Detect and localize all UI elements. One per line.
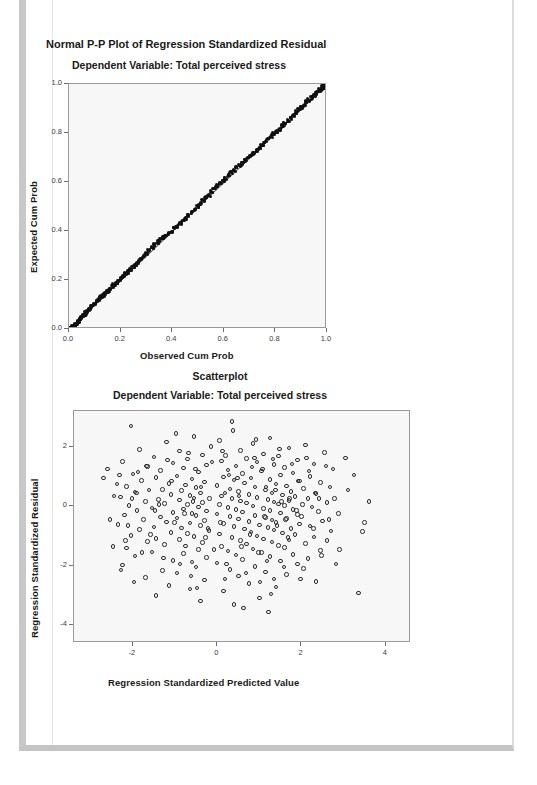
data-point — [253, 513, 258, 518]
data-point — [124, 546, 129, 551]
data-point — [268, 554, 273, 559]
data-point — [234, 507, 239, 512]
data-point — [174, 431, 179, 436]
data-point — [249, 476, 254, 481]
axis-tick — [385, 642, 386, 646]
data-point — [130, 496, 135, 501]
data-point — [257, 523, 262, 528]
data-point — [312, 462, 317, 467]
data-point — [266, 525, 271, 530]
data-point — [207, 496, 212, 501]
data-point — [188, 521, 193, 526]
axis-tick — [171, 328, 172, 332]
data-point — [232, 524, 237, 529]
data-point — [200, 453, 205, 458]
data-point — [223, 453, 228, 458]
data-point — [272, 577, 277, 582]
axis-tick-label: 1.0 — [313, 334, 339, 343]
data-point — [280, 493, 285, 498]
data-point — [274, 482, 279, 487]
data-point — [290, 462, 295, 467]
data-point — [212, 547, 217, 552]
data-point — [134, 491, 139, 496]
data-point — [198, 599, 203, 604]
data-point — [287, 446, 292, 451]
data-point — [169, 492, 174, 497]
data-point — [283, 517, 288, 522]
data-point — [148, 532, 153, 537]
data-point — [145, 539, 150, 544]
data-point — [255, 460, 260, 465]
axis-tick — [69, 446, 73, 447]
data-point — [276, 543, 281, 548]
data-point — [182, 511, 187, 516]
data-point — [230, 535, 235, 540]
data-point — [196, 547, 201, 552]
data-point — [224, 562, 229, 567]
data-point — [332, 496, 337, 501]
data-point — [275, 523, 280, 528]
data-point — [129, 424, 134, 429]
axis-tick-label: 0 — [45, 500, 67, 509]
data-point — [132, 580, 137, 585]
data-point — [92, 303, 95, 306]
data-point — [144, 464, 149, 469]
data-point — [237, 494, 242, 499]
data-point — [158, 239, 161, 242]
data-point — [303, 443, 308, 448]
data-point — [156, 497, 161, 502]
data-point — [200, 540, 205, 545]
data-point — [116, 522, 121, 527]
data-point — [298, 577, 303, 582]
axis-tick — [64, 83, 68, 84]
data-point — [215, 512, 220, 517]
data-point — [139, 478, 144, 483]
axis-tick-label: 0.8 — [261, 334, 287, 343]
axis-tick-label: 0.4 — [158, 334, 184, 343]
data-point — [219, 544, 224, 549]
data-point — [242, 527, 247, 532]
data-point — [178, 562, 183, 567]
data-point — [250, 465, 255, 470]
data-point — [194, 565, 199, 570]
data-point — [181, 466, 186, 471]
data-point — [191, 499, 196, 504]
data-point — [108, 517, 113, 522]
data-point — [171, 510, 176, 515]
data-point — [204, 509, 209, 514]
data-point — [278, 473, 283, 478]
data-point — [157, 502, 162, 507]
data-point — [293, 494, 298, 499]
axis-tick — [64, 230, 68, 231]
data-point — [356, 591, 361, 596]
data-point — [265, 559, 270, 564]
data-point — [360, 529, 365, 534]
data-point — [263, 570, 268, 575]
data-point — [190, 560, 195, 565]
data-point — [193, 467, 198, 472]
data-point — [169, 479, 174, 484]
data-point — [160, 487, 165, 492]
data-point — [261, 452, 266, 457]
data-point — [179, 488, 184, 493]
data-point — [251, 441, 256, 446]
data-point — [255, 534, 260, 539]
axis-tick-label: -4 — [45, 619, 67, 628]
data-point — [131, 472, 136, 477]
data-point — [352, 473, 357, 478]
data-point — [235, 476, 240, 481]
data-point — [185, 502, 190, 507]
axis-tick — [326, 328, 327, 332]
data-point — [325, 538, 330, 543]
data-point — [311, 526, 316, 531]
data-point — [160, 568, 165, 573]
axis-tick-label: 0.6 — [210, 334, 236, 343]
data-point — [247, 519, 252, 524]
data-point — [228, 567, 233, 572]
data-point — [188, 587, 193, 592]
data-point — [226, 549, 231, 554]
axis-tick — [69, 565, 73, 566]
data-point — [226, 505, 231, 510]
data-point — [287, 496, 292, 501]
data-point — [230, 419, 235, 424]
